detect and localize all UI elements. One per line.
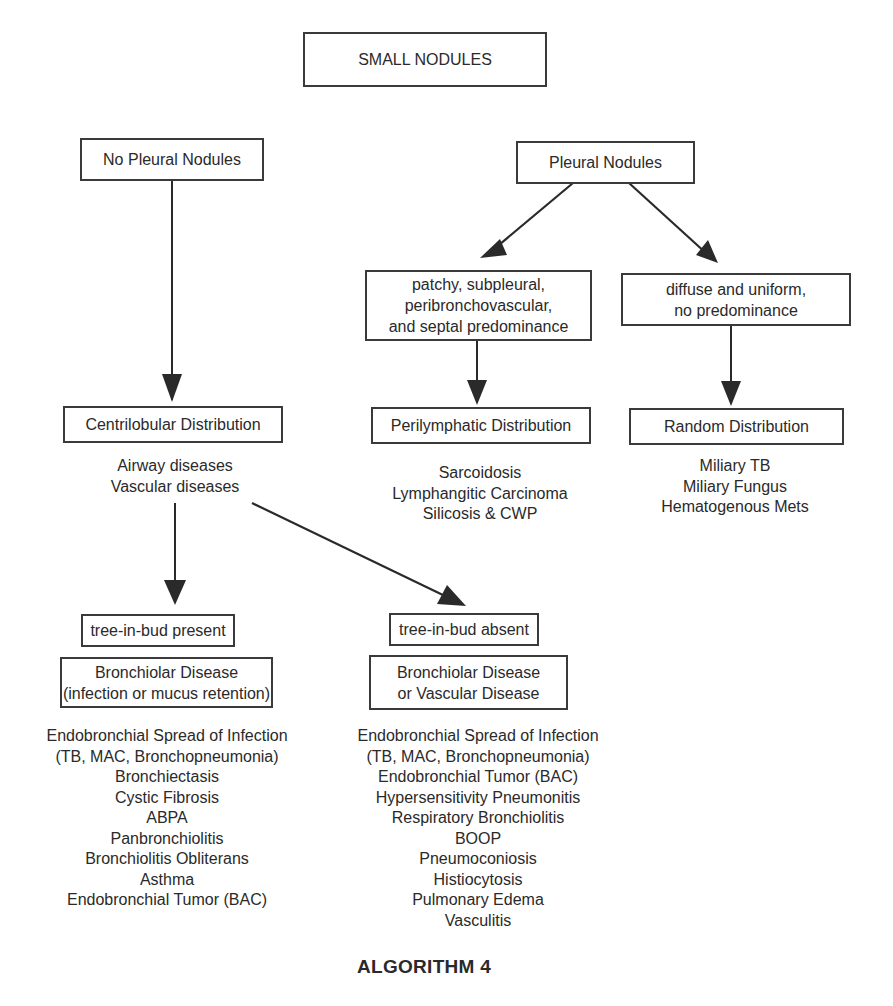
node-bronchiolar-or-vascular-disease: Bronchiolar Disease or Vascular Disease	[369, 655, 568, 710]
list-item: BOOP	[328, 829, 628, 850]
root-label: SMALL NODULES	[358, 49, 492, 70]
root-node-small-nodules: SMALL NODULES	[303, 32, 547, 87]
tree-in-bud-absent-disease-list: Endobronchial Spread of Infection (TB, M…	[328, 726, 628, 931]
list-item: Panbronchiolitis	[17, 829, 317, 850]
arrowhead-icon	[164, 580, 186, 605]
list-item: Airway diseases	[90, 456, 260, 477]
list-item: Bronchiolitis Obliterans	[17, 849, 317, 870]
list-item: Hematogenous Mets	[640, 497, 830, 518]
list-item: Hypersensitivity Pneumonitis	[328, 788, 628, 809]
list-item: Vasculitis	[328, 911, 628, 932]
list-item: Pulmonary Edema	[328, 890, 628, 911]
tree-in-bud-present-disease-list: Endobronchial Spread of Infection (TB, M…	[17, 726, 317, 911]
list-item: Sarcoidosis	[380, 463, 580, 484]
list-item: Lymphangitic Carcinoma	[380, 484, 580, 505]
arrowhead-icon	[467, 380, 487, 405]
figure-caption: ALGORITHM 4	[357, 956, 491, 978]
perilymphatic-disease-list: Sarcoidosis Lymphangitic Carcinoma Silic…	[380, 463, 580, 525]
list-item: Endobronchial Tumor (BAC)	[328, 767, 628, 788]
list-item: Respiratory Bronchiolitis	[328, 808, 628, 829]
node-patchy-subpleural: patchy, subpleural, peribronchovascular,…	[365, 270, 592, 341]
list-item: Vascular diseases	[90, 477, 260, 498]
node-pleural-nodules: Pleural Nodules	[516, 141, 695, 184]
list-item: Miliary Fungus	[640, 477, 830, 498]
arrowhead-icon	[162, 374, 182, 402]
list-item: Bronchiectasis	[17, 767, 317, 788]
node-centrilobular-distribution: Centrilobular Distribution	[63, 406, 283, 443]
node-no-pleural-nodules: No Pleural Nodules	[80, 138, 264, 181]
list-item: Silicosis & CWP	[380, 504, 580, 525]
node-diffuse-uniform: diffuse and uniform, no predominance	[621, 273, 851, 326]
random-disease-list: Miliary TB Miliary Fungus Hematogenous M…	[640, 456, 830, 518]
centrilobular-disease-list: Airway diseases Vascular diseases	[90, 456, 260, 497]
list-item: Endobronchial Spread of Infection	[328, 726, 628, 747]
list-item: (TB, MAC, Bronchopneumonia)	[328, 747, 628, 768]
arrowhead-icon	[721, 381, 741, 406]
list-item: Endobronchial Spread of Infection	[17, 726, 317, 747]
list-item: Cystic Fibrosis	[17, 788, 317, 809]
list-item: Miliary TB	[640, 456, 830, 477]
list-item: Endobronchial Tumor (BAC)	[17, 890, 317, 911]
arrowhead-icon	[696, 240, 718, 263]
list-item: Pneumoconiosis	[328, 849, 628, 870]
arrowhead-icon	[437, 585, 466, 606]
list-item: (TB, MAC, Bronchopneumonia)	[17, 747, 317, 768]
node-bronchiolar-disease-infection: Bronchiolar Disease (infection or mucus …	[60, 657, 273, 708]
node-tree-in-bud-absent: tree-in-bud absent	[389, 613, 539, 646]
list-item: ABPA	[17, 808, 317, 829]
node-tree-in-bud-present: tree-in-bud present	[81, 614, 235, 647]
node-random-distribution: Random Distribution	[629, 408, 844, 445]
node-perilymphatic-distribution: Perilymphatic Distribution	[371, 407, 591, 444]
list-item: Histiocytosis	[328, 870, 628, 891]
list-item: Asthma	[17, 870, 317, 891]
